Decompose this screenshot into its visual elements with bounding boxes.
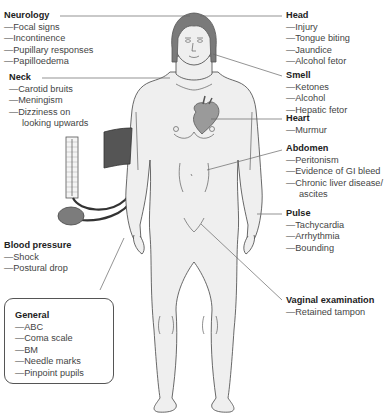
- blood-pressure-title: Blood pressure: [4, 240, 71, 252]
- pulse-item: Bounding: [286, 243, 344, 255]
- abdomen-item: Evidence of GI bleed: [286, 166, 383, 178]
- neck-item: Dizziness on: [9, 107, 88, 119]
- vaginal-examination-item: Retained tampon: [286, 307, 374, 319]
- smell-title: Smell: [286, 70, 347, 82]
- abdomen-item-continuation: ascites: [286, 189, 383, 201]
- head-title: Head: [286, 10, 350, 22]
- general-item: Coma scale: [15, 333, 84, 345]
- general-item: Pinpoint pupils: [15, 368, 84, 380]
- blood-pressure-item: Shock: [4, 252, 71, 264]
- vaginal-examination-title: Vaginal examination: [286, 295, 374, 307]
- blood-pressure-label: Blood pressure Shock Postural drop: [4, 240, 71, 275]
- neck-item: Meningism: [9, 95, 88, 107]
- blood-pressure-item: Postural drop: [4, 263, 71, 275]
- smell-item: Alcohol: [286, 93, 347, 105]
- smell-label: Smell Ketones Alcohol Hepatic fetor: [286, 70, 347, 116]
- heart-item: Murmur: [286, 125, 327, 137]
- heart-title: Heart: [286, 113, 327, 125]
- abdomen-label: Abdomen Peritonism Evidence of GI bleed …: [286, 143, 383, 201]
- neurology-item: Focal signs: [4, 22, 93, 34]
- general-title: General: [15, 310, 84, 322]
- smell-item: Ketones: [286, 82, 347, 94]
- neurology-label: Neurology Focal signs Incontinence Pupil…: [4, 10, 93, 68]
- head-item: Tongue biting: [286, 33, 350, 45]
- vaginal-examination-label: Vaginal examination Retained tampon: [286, 295, 374, 318]
- neck-title: Neck: [9, 72, 88, 84]
- pulse-item: Arrhythmia: [286, 231, 344, 243]
- head-item: Jaundice: [286, 45, 350, 57]
- pulse-item: Tachycardia: [286, 220, 344, 232]
- head-label: Head Injury Tongue biting Jaundice Alcoh…: [286, 10, 350, 68]
- head-item: Alcohol fetor: [286, 56, 350, 68]
- pulse-title: Pulse: [286, 208, 344, 220]
- human-body-figure: [104, 13, 262, 412]
- abdomen-title: Abdomen: [286, 143, 383, 155]
- neck-item: Carotid bruits: [9, 84, 88, 96]
- head-item: Injury: [286, 22, 350, 34]
- neurology-item: Pupillary responses: [4, 45, 93, 57]
- pulse-label: Pulse Tachycardia Arrhythmia Bounding: [286, 208, 344, 254]
- general-item: Needle marks: [15, 356, 84, 368]
- neurology-item: Incontinence: [4, 33, 93, 45]
- abdomen-item: Peritonism: [286, 155, 383, 167]
- heart-label: Heart Murmur: [286, 113, 327, 136]
- neurology-title: Neurology: [4, 10, 93, 22]
- general-item: BM: [15, 345, 84, 357]
- general-item: ABC: [15, 322, 84, 334]
- abdomen-item: Chronic liver disease/: [286, 178, 383, 190]
- neck-label: Neck Carotid bruits Meningism Dizziness …: [9, 72, 88, 130]
- neurology-item: Papilloedema: [4, 56, 93, 68]
- general-label: General ABC Coma scale BM Needle marks P…: [15, 310, 84, 380]
- neck-item-continuation: looking upwards: [9, 118, 88, 130]
- blood-pressure-cuff-icon: [104, 128, 132, 168]
